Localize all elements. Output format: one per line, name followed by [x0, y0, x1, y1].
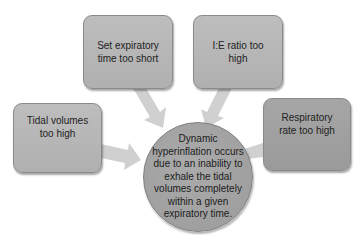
cause-label: Set expiratory time too short	[93, 39, 163, 65]
cause-box-tidal-volumes: Tidal volumes too high	[13, 103, 102, 173]
arrow-tidal-volumes-to-center	[101, 143, 141, 170]
center-outcome-label: Dynamic hyperinflation occurs due to an …	[150, 133, 246, 221]
cause-box-set-expiratory-time: Set expiratory time too short	[83, 15, 173, 89]
arrow-set-expiratory-to-center	[132, 88, 166, 128]
cause-label: I:E ratio too high	[207, 39, 269, 65]
center-outcome-circle: Dynamic hyperinflation occurs due to an …	[143, 122, 253, 232]
cause-box-respiratory-rate: Respiratory rate too high	[263, 98, 351, 171]
cause-label: Respiratory rate too high	[272, 111, 342, 137]
cause-label: Tidal volumes too high	[22, 114, 94, 140]
cause-box-ie-ratio: I:E ratio too high	[193, 15, 283, 89]
